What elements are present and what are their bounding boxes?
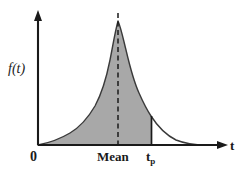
tp-label: tp [146, 150, 155, 166]
x-axis-arrowhead [217, 141, 228, 149]
x-axis-label: t [230, 139, 234, 152]
origin-label: 0 [30, 150, 37, 164]
probability-density-figure: f(t) t 0 Mean tp [0, 0, 245, 176]
mean-label: Mean [97, 150, 129, 163]
y-axis-label: f(t) [8, 62, 25, 76]
y-axis-arrowhead [34, 10, 42, 21]
shaded-area [38, 21, 151, 145]
tp-label-subscript: p [150, 156, 155, 166]
